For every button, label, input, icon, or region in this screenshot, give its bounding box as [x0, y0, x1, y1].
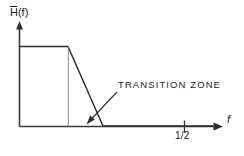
y-axis-label-symbol: H [10, 6, 18, 18]
x-axis-label: f [227, 114, 230, 125]
y-axis [16, 21, 23, 127]
y-axis-label-argument: (f) [18, 6, 28, 18]
transition-zone-leader [87, 92, 118, 125]
x-axis-arrowhead [214, 123, 224, 131]
annotation-transition-zone: TRANSITION ZONE [118, 80, 221, 90]
figure-container: H(f) f 1/2 TRANSITION ZONE [0, 0, 244, 156]
x-axis-tick-label-half: 1/2 [175, 131, 190, 141]
frequency-response-plot [0, 0, 244, 156]
y-axis-label: H(f) [10, 6, 28, 18]
y-axis-arrowhead [16, 21, 23, 30]
transition-slope-segment [68, 47, 103, 127]
